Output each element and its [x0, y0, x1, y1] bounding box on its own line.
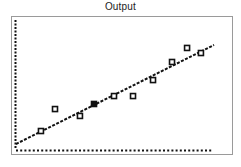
data-point-marker	[185, 45, 190, 50]
data-point-marker	[131, 94, 136, 99]
data-point-marker	[53, 107, 58, 112]
data-point-marker	[92, 101, 97, 106]
data-point-marker	[38, 129, 43, 134]
data-point-marker	[77, 113, 82, 118]
plot-area	[0, 0, 241, 167]
data-point-marker	[112, 94, 117, 99]
data-point-marker	[198, 51, 203, 56]
data-point-marker	[151, 78, 156, 83]
data-points	[38, 45, 203, 133]
data-point-marker	[170, 59, 175, 64]
